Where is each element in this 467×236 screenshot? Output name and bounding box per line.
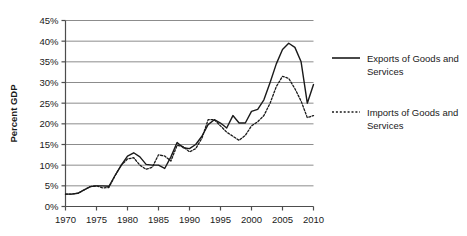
legend-label-exports: Exports of Goods and xyxy=(367,53,459,64)
y-tick-label: 20% xyxy=(39,118,59,129)
y-axis-title-text: Percent GDP xyxy=(8,84,19,143)
gridlines xyxy=(66,21,314,186)
x-tick-label: 1980 xyxy=(117,214,138,225)
legend-label-exports-line2: Services xyxy=(367,66,404,77)
y-tick-label: 40% xyxy=(39,36,59,47)
y-tick-label: 30% xyxy=(39,77,59,88)
series-line-exports xyxy=(66,43,314,194)
x-axis-ticks: 197019751980198519901995200020052010 xyxy=(55,207,324,225)
data-series xyxy=(66,43,314,194)
legend-label-imports: Imports of Goods and xyxy=(367,107,458,118)
y-tick-label: 5% xyxy=(45,180,59,191)
axes xyxy=(66,21,314,207)
x-tick-label: 2000 xyxy=(241,214,262,225)
x-tick-label: 2005 xyxy=(272,214,293,225)
x-tick-label: 2010 xyxy=(303,214,324,225)
y-tick-label: 25% xyxy=(39,98,59,109)
y-tick-label: 45% xyxy=(39,15,59,26)
x-tick-label: 1995 xyxy=(210,214,231,225)
x-tick-label: 1975 xyxy=(86,214,107,225)
y-tick-label: 35% xyxy=(39,56,59,67)
gdp-trade-line-chart: 0%5%10%15%20%25%30%35%40%45% 19701975198… xyxy=(0,0,467,236)
chart-figure: 0%5%10%15%20%25%30%35%40%45% 19701975198… xyxy=(0,0,467,236)
y-tick-label: 15% xyxy=(39,139,59,150)
y-tick-label: 0% xyxy=(45,201,59,212)
x-tick-label: 1985 xyxy=(148,214,169,225)
x-tick-label: 1970 xyxy=(55,214,76,225)
legend-label-imports-line2: Services xyxy=(367,120,404,131)
y-axis-ticks: 0%5%10%15%20%25%30%35%40%45% xyxy=(39,15,65,212)
x-tick-label: 1990 xyxy=(179,214,200,225)
chart-legend: Exports of Goods andServicesImports of G… xyxy=(332,53,459,131)
series-line-imports xyxy=(66,76,314,194)
y-tick-label: 10% xyxy=(39,160,59,171)
y-axis-title: Percent GDP xyxy=(8,84,19,143)
